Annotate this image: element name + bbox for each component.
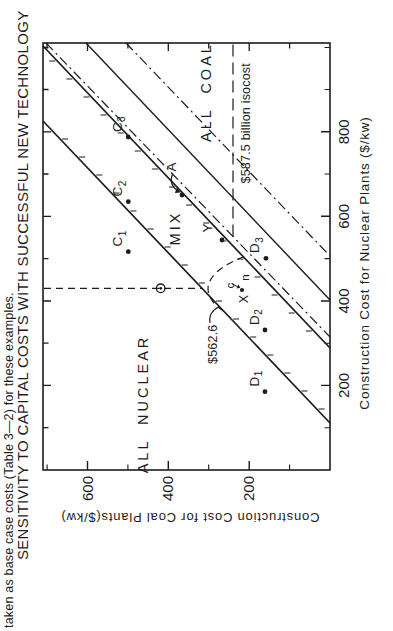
y-tick-200: 200 — [240, 476, 257, 501]
scanned-page: taken as base case costs (Table 3—2) for… — [0, 0, 393, 631]
point-d1-label-main: D — [247, 377, 262, 387]
point-d3-label: D3 — [247, 237, 265, 253]
label-n-lowercase: n — [239, 274, 251, 280]
base-case-point-dot — [159, 287, 162, 290]
chart-canvas: taken as base case costs (Table 3—2) for… — [0, 0, 393, 631]
point-c2-label-main: C — [110, 187, 125, 197]
point-c1-label-sub: 1 — [117, 230, 128, 236]
point-c2-dot — [126, 199, 131, 204]
point-c3-dot — [126, 135, 131, 140]
x-axis-minor-ticks — [325, 48, 331, 428]
y-tick-600: 600 — [79, 476, 96, 501]
point-a-label: A — [164, 162, 179, 171]
hatch-marks-upper-boundary — [62, 139, 325, 409]
y-axis-label: Construction Cost for Coal Plants($/kw) — [61, 510, 320, 525]
region-label-all-coal: ALL COAL — [198, 42, 214, 142]
point-d2-label-sub: 2 — [253, 309, 264, 315]
point-d2-label: D2 — [247, 309, 265, 325]
x-tick-600: 600 — [335, 204, 352, 229]
point-y-label: Y — [200, 223, 215, 232]
point-y-dot — [220, 238, 225, 243]
rotated-figure: taken as base case costs (Table 3—2) for… — [0, 0, 393, 631]
plot-frame — [43, 43, 330, 470]
point-a-dot — [180, 193, 185, 198]
region-label-mix: MIX — [167, 211, 183, 246]
point-d1-label: D1 — [247, 370, 265, 386]
point-c1-dot — [126, 249, 131, 254]
point-c1-label: C1 — [110, 230, 128, 246]
point-c1-label-main: C — [110, 237, 125, 247]
label-c-lowercase: c — [224, 282, 236, 288]
point-d2-label-main: D — [247, 315, 262, 325]
isocost-562-leader-line — [210, 307, 220, 324]
x-tick-800: 800 — [335, 119, 352, 144]
boundary-line-mix-lower — [43, 46, 330, 348]
region-label-all-nuclear: ALL NUCLEAR — [135, 335, 151, 474]
point-d1-label-sub: 1 — [253, 370, 264, 376]
x-axis-label: Construction Cost for Nuclear Plants ($/… — [357, 116, 372, 409]
newtech-dashdot-line-1 — [46, 43, 330, 337]
isocost-562-label: $562.6 — [206, 325, 220, 364]
point-x-dot — [240, 288, 244, 292]
point-x-label: X — [237, 294, 251, 303]
newtech-dashdot-line-2 — [126, 43, 330, 256]
point-d3-label-sub: 3 — [254, 237, 265, 243]
y-axis-major-ticks — [88, 461, 250, 470]
point-c3-label-sub: 3 — [116, 116, 127, 122]
point-d3-label-main: D — [247, 243, 262, 253]
point-c3-label-main: C — [110, 122, 125, 132]
x-tick-400: 400 — [335, 288, 352, 313]
y-tick-400: 400 — [159, 476, 176, 501]
top-edge-ticks — [43, 48, 51, 428]
x-tick-200: 200 — [335, 373, 352, 398]
isocost-587-label: $587.5 billion isocost — [239, 63, 253, 184]
point-c2-label: C2 — [110, 180, 128, 196]
point-d2-dot — [263, 328, 268, 333]
chart-title: SENSITIVITY TO CAPITAL COSTS WITH SUCCES… — [14, 11, 31, 560]
boundary-line-mix-upper — [43, 121, 330, 423]
point-d1-dot — [263, 389, 268, 394]
right-edge-ticks — [47, 43, 290, 51]
point-c2-label-sub: 2 — [117, 180, 128, 186]
point-d3-dot — [264, 256, 269, 261]
